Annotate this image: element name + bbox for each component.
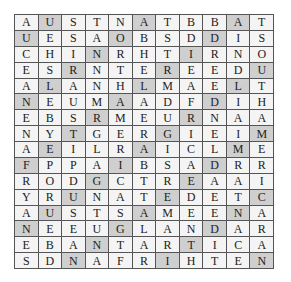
grid-cell[interactable]: M [156, 206, 179, 221]
grid-cell[interactable]: M [109, 110, 132, 125]
grid-cell[interactable]: A [15, 206, 38, 221]
grid-cell[interactable]: O [109, 31, 132, 46]
grid-cell[interactable]: C [15, 47, 38, 62]
grid-cell[interactable]: F [109, 253, 132, 268]
grid-cell[interactable]: T [109, 63, 132, 78]
grid-cell[interactable]: I [62, 142, 85, 157]
grid-cell[interactable]: N [15, 94, 38, 109]
grid-cell[interactable]: A [15, 15, 38, 30]
grid-cell[interactable]: S [62, 31, 85, 46]
grid-cell[interactable]: A [227, 174, 250, 189]
grid-cell[interactable]: E [39, 221, 62, 236]
grid-cell[interactable]: E [39, 31, 62, 46]
grid-cell[interactable]: E [133, 110, 156, 125]
grid-cell[interactable]: A [62, 237, 85, 252]
grid-cell[interactable]: E [15, 63, 38, 78]
grid-cell[interactable]: D [180, 190, 203, 205]
grid-cell[interactable]: R [156, 174, 179, 189]
grid-cell[interactable]: I [109, 158, 132, 173]
grid-cell[interactable]: B [133, 158, 156, 173]
grid-cell[interactable]: D [203, 158, 226, 173]
grid-cell[interactable]: A [133, 237, 156, 252]
grid-cell[interactable]: Y [39, 126, 62, 141]
grid-cell[interactable]: A [227, 110, 250, 125]
grid-cell[interactable]: T [133, 174, 156, 189]
grid-cell[interactable]: E [180, 63, 203, 78]
grid-cell[interactable]: T [250, 79, 273, 94]
grid-cell[interactable]: E [203, 206, 226, 221]
grid-cell[interactable]: A [86, 253, 109, 268]
grid-cell[interactable]: N [180, 221, 203, 236]
grid-cell[interactable]: B [39, 110, 62, 125]
grid-cell[interactable]: A [227, 15, 250, 30]
grid-cell[interactable]: T [203, 253, 226, 268]
grid-cell[interactable]: U [86, 221, 109, 236]
grid-cell[interactable]: U [250, 63, 273, 78]
grid-cell[interactable]: E [133, 63, 156, 78]
grid-cell[interactable]: H [109, 79, 132, 94]
grid-cell[interactable]: T [227, 190, 250, 205]
grid-cell[interactable]: G [109, 221, 132, 236]
grid-cell[interactable]: S [62, 110, 85, 125]
grid-cell[interactable]: A [133, 94, 156, 109]
grid-cell[interactable]: M [86, 94, 109, 109]
grid-cell[interactable]: N [62, 253, 85, 268]
grid-cell[interactable]: U [62, 94, 85, 109]
grid-cell[interactable]: D [203, 31, 226, 46]
grid-cell[interactable]: U [39, 206, 62, 221]
grid-cell[interactable]: D [62, 174, 85, 189]
grid-cell[interactable]: A [156, 221, 179, 236]
grid-cell[interactable]: O [39, 174, 62, 189]
grid-cell[interactable]: A [250, 110, 273, 125]
grid-cell[interactable]: H [133, 47, 156, 62]
grid-cell[interactable]: F [180, 94, 203, 109]
grid-cell[interactable]: C [180, 142, 203, 157]
grid-cell[interactable]: D [203, 94, 226, 109]
grid-cell[interactable]: H [180, 253, 203, 268]
grid-cell[interactable]: N [15, 221, 38, 236]
grid-cell[interactable]: B [203, 15, 226, 30]
grid-cell[interactable]: A [133, 206, 156, 221]
grid-cell[interactable]: T [180, 237, 203, 252]
grid-cell[interactable]: D [180, 31, 203, 46]
grid-cell[interactable]: I [250, 174, 273, 189]
grid-cell[interactable]: I [180, 126, 203, 141]
grid-cell[interactable]: N [109, 15, 132, 30]
grid-cell[interactable]: D [156, 94, 179, 109]
grid-cell[interactable]: R [227, 158, 250, 173]
grid-cell[interactable]: S [62, 206, 85, 221]
grid-cell[interactable]: T [86, 15, 109, 30]
grid-cell[interactable]: I [227, 31, 250, 46]
grid-cell[interactable]: H [39, 47, 62, 62]
grid-cell[interactable]: N [86, 47, 109, 62]
grid-cell[interactable]: R [133, 126, 156, 141]
grid-cell[interactable]: A [15, 79, 38, 94]
grid-cell[interactable]: R [250, 221, 273, 236]
grid-cell[interactable]: E [227, 253, 250, 268]
grid-cell[interactable]: R [39, 190, 62, 205]
grid-cell[interactable]: A [180, 158, 203, 173]
grid-cell[interactable]: A [250, 206, 273, 221]
grid-cell[interactable]: N [250, 253, 273, 268]
grid-cell[interactable]: G [86, 126, 109, 141]
grid-cell[interactable]: R [156, 237, 179, 252]
grid-cell[interactable]: E [39, 94, 62, 109]
grid-cell[interactable]: I [227, 126, 250, 141]
grid-cell[interactable]: U [156, 110, 179, 125]
grid-cell[interactable]: D [227, 63, 250, 78]
grid-cell[interactable]: R [109, 47, 132, 62]
grid-cell[interactable]: M [227, 142, 250, 157]
grid-cell[interactable]: R [86, 110, 109, 125]
grid-cell[interactable]: L [133, 221, 156, 236]
grid-cell[interactable]: E [62, 221, 85, 236]
grid-cell[interactable]: E [203, 190, 226, 205]
grid-cell[interactable]: N [227, 47, 250, 62]
grid-cell[interactable]: A [133, 15, 156, 30]
grid-cell[interactable]: L [86, 142, 109, 157]
grid-cell[interactable]: A [227, 221, 250, 236]
grid-cell[interactable]: N [86, 79, 109, 94]
grid-cell[interactable]: A [109, 190, 132, 205]
grid-cell[interactable]: S [15, 253, 38, 268]
grid-cell[interactable]: H [250, 94, 273, 109]
grid-cell[interactable]: A [62, 79, 85, 94]
